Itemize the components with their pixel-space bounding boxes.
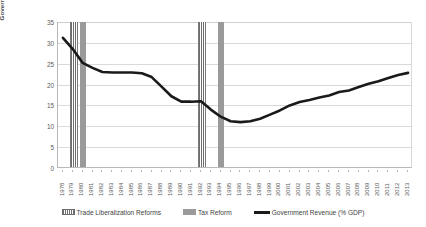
x-axis-tickmark bbox=[377, 170, 378, 172]
x-axis-tickmark bbox=[269, 170, 270, 172]
black-line-swatch-icon bbox=[254, 211, 270, 214]
x-axis-tick: 2005 bbox=[325, 183, 331, 196]
x-axis-tickmark bbox=[92, 170, 93, 172]
legend-label-tax-reform: Tax Reform bbox=[198, 209, 232, 216]
x-axis-tick: 1996 bbox=[236, 183, 242, 196]
x-axis-tick: 2012 bbox=[394, 183, 400, 196]
x-axis-tick: 1997 bbox=[246, 183, 252, 196]
x-axis-tick: 2002 bbox=[295, 183, 301, 196]
legend-item-tax-reform: Tax Reform bbox=[183, 209, 232, 216]
x-axis-tickmark bbox=[279, 170, 280, 172]
y-axis-tick: 5 bbox=[28, 144, 54, 151]
y-axis-title: Government Revenue (% GDP) bbox=[0, 0, 5, 34]
x-axis-tickmark bbox=[239, 170, 240, 172]
y-axis-tick: 10 bbox=[28, 123, 54, 130]
x-axis-tickmark bbox=[141, 170, 142, 172]
x-axis-tick: 1985 bbox=[128, 183, 134, 196]
x-axis-tickmark bbox=[299, 170, 300, 172]
x-axis-tickmark bbox=[338, 170, 339, 172]
legend-label-government-revenue: Government Revenue (% GDP) bbox=[272, 209, 365, 216]
x-axis-tick: 2011 bbox=[384, 183, 390, 196]
x-axis-tick: 2006 bbox=[335, 183, 341, 196]
y-axis-tick: 25 bbox=[28, 60, 54, 67]
x-axis-tickmark bbox=[151, 170, 152, 172]
x-axis-tickmark bbox=[308, 170, 309, 172]
x-axis-tickmark bbox=[131, 170, 132, 172]
x-axis-tick: 2000 bbox=[275, 183, 281, 196]
x-axis-tickmark bbox=[111, 170, 112, 172]
x-axis-tick: 1991 bbox=[187, 183, 193, 196]
y-axis-tick: 30 bbox=[28, 39, 54, 46]
x-axis-tickmark bbox=[249, 170, 250, 172]
x-axis-tick: 1993 bbox=[206, 183, 212, 196]
x-axis-tickmark bbox=[170, 170, 171, 172]
x-axis-tick: 1987 bbox=[147, 183, 153, 196]
government-revenue-chart: Government Revenue (% GDP) 0510152025303… bbox=[0, 0, 426, 227]
x-axis-tick: 1986 bbox=[137, 183, 143, 196]
x-axis-tick: 1981 bbox=[88, 183, 94, 196]
x-axis-tickmark bbox=[230, 170, 231, 172]
x-axis-tick: 1982 bbox=[98, 183, 104, 196]
plot-area bbox=[57, 22, 412, 168]
x-axis-tickmark bbox=[289, 170, 290, 172]
x-axis-tick: 2010 bbox=[374, 183, 380, 196]
x-axis-tick: 2001 bbox=[285, 183, 291, 196]
x-axis-tick: 2009 bbox=[364, 183, 370, 196]
legend-label-trade-liberalization: Trade Liberalization Reforms bbox=[77, 209, 161, 216]
x-axis-tick: 1988 bbox=[157, 183, 163, 196]
y-axis-tick: 35 bbox=[28, 19, 54, 26]
x-axis-tick: 1989 bbox=[167, 183, 173, 196]
x-axis-tickmark bbox=[318, 170, 319, 172]
x-axis-tickmark bbox=[200, 170, 201, 172]
x-axis-tickmark bbox=[82, 170, 83, 172]
x-axis-tick: 1995 bbox=[226, 183, 232, 196]
x-axis-tick: 1983 bbox=[108, 183, 114, 196]
x-axis-tickmark bbox=[121, 170, 122, 172]
solid-gray-swatch-icon bbox=[183, 209, 196, 215]
x-axis-tick: 2004 bbox=[315, 183, 321, 196]
x-axis-tick: 1999 bbox=[266, 183, 272, 196]
y-axis-tick-labels: 05101520253035 bbox=[27, 22, 54, 168]
x-axis-tick: 2003 bbox=[305, 183, 311, 196]
x-axis-tick: 1990 bbox=[177, 183, 183, 196]
x-axis-tick: 1992 bbox=[197, 183, 203, 196]
x-axis-tick: 2008 bbox=[354, 183, 360, 196]
x-axis-tick: 1984 bbox=[118, 183, 124, 196]
legend-item-government-revenue: Government Revenue (% GDP) bbox=[254, 209, 365, 216]
x-axis-tick: 1994 bbox=[216, 183, 222, 196]
x-axis-tickmark bbox=[259, 170, 260, 172]
series-layer bbox=[58, 22, 413, 168]
x-axis-tickmark bbox=[180, 170, 181, 172]
x-axis-tickmark bbox=[72, 170, 73, 172]
x-axis-tickmark bbox=[210, 170, 211, 172]
y-axis-tick: 15 bbox=[28, 102, 54, 109]
x-axis-tickmark bbox=[387, 170, 388, 172]
x-axis-tickmark bbox=[348, 170, 349, 172]
x-axis-tick: 1980 bbox=[78, 183, 84, 196]
x-axis-tickmark bbox=[220, 170, 221, 172]
y-axis-tick: 0 bbox=[28, 165, 54, 172]
legend-item-trade-liberalization: Trade Liberalization Reforms bbox=[62, 209, 161, 216]
x-axis-tick: 1979 bbox=[68, 183, 74, 196]
x-axis-tick: 2013 bbox=[404, 183, 410, 196]
x-axis-tickmark bbox=[328, 170, 329, 172]
x-axis-tick: 1998 bbox=[256, 183, 262, 196]
x-axis-tickmark bbox=[161, 170, 162, 172]
x-axis-tick: 2007 bbox=[345, 183, 351, 196]
chart-legend: Trade Liberalization Reforms Tax Reform … bbox=[0, 203, 426, 221]
y-axis-tick: 20 bbox=[28, 81, 54, 88]
x-axis-tickmark bbox=[358, 170, 359, 172]
x-axis-tickmark bbox=[62, 170, 63, 172]
x-axis-tick: 1978 bbox=[59, 183, 65, 196]
x-axis-tick-labels: 1978197919801981198219831984198519861987… bbox=[57, 170, 412, 196]
x-axis-tickmark bbox=[190, 170, 191, 172]
hatched-swatch-icon bbox=[62, 209, 75, 215]
x-axis-tickmark bbox=[101, 170, 102, 172]
x-axis-tickmark bbox=[397, 170, 398, 172]
x-axis-tickmark bbox=[368, 170, 369, 172]
series-line-government-revenue bbox=[63, 38, 408, 122]
x-axis-tickmark bbox=[407, 170, 408, 172]
